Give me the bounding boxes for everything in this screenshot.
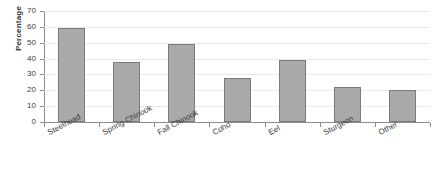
y-tick-label: 60	[0, 23, 36, 31]
y-tick-label: 0	[0, 118, 36, 126]
x-tick-mark	[209, 123, 210, 127]
bar	[279, 60, 306, 122]
y-tick-label: 30	[0, 70, 36, 78]
y-tick-label: 50	[0, 39, 36, 47]
x-tick-mark	[320, 123, 321, 127]
bars-container	[44, 11, 430, 122]
bar	[389, 90, 416, 122]
x-tick-mark	[154, 123, 155, 127]
y-tick-label: 70	[0, 7, 36, 15]
y-tick-label: 20	[0, 86, 36, 94]
x-tick-mark	[375, 123, 376, 127]
bar	[58, 28, 85, 122]
x-tick-mark	[99, 123, 100, 127]
bar-chart: Percentage 010203040506070 SteelheadSpri…	[0, 0, 434, 174]
y-tick-label: 10	[0, 102, 36, 110]
x-tick-label: Eel	[267, 124, 281, 137]
x-tick-mark	[265, 123, 266, 127]
x-tick-mark	[44, 123, 45, 127]
x-tick-mark	[430, 123, 431, 127]
x-axis-line	[44, 122, 430, 123]
y-tick-label: 40	[0, 55, 36, 63]
bar	[224, 78, 251, 122]
